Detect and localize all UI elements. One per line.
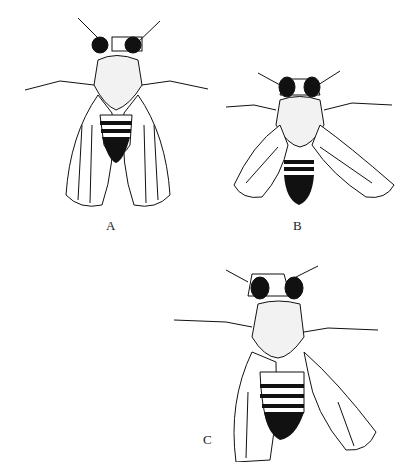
fly-a-drawing [20, 15, 210, 210]
panel-label-a: A [106, 218, 115, 234]
fly-illustration-a [20, 15, 210, 210]
fly-b-drawing [222, 65, 412, 210]
fly-illustration-b [222, 65, 412, 210]
panel-label-c: C [203, 432, 212, 448]
fly-illustration-c [168, 262, 388, 462]
panel-label-b: B [293, 218, 302, 234]
fly-c-drawing [168, 262, 388, 462]
